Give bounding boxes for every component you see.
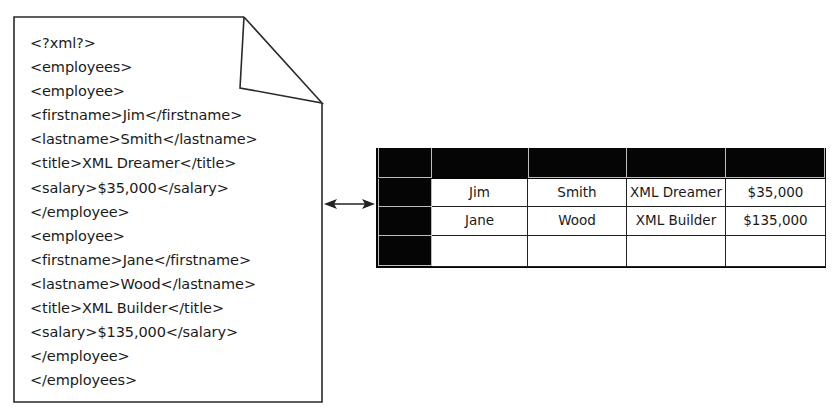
table-cell-title: XML Dreamer <box>627 179 726 207</box>
xml-line: <firstname>Jim</firstname> <box>30 103 258 127</box>
xml-line: <salary>$35,000</salary> <box>30 176 258 200</box>
xml-line: <lastname>Smith</lastname> <box>30 127 258 151</box>
xml-line: <firstname>Jane</firstname> <box>30 248 258 272</box>
xml-line: <lastname>Wood</lastname> <box>30 272 258 296</box>
table-cell-salary: $35,000 <box>726 179 826 207</box>
table-cell-firstname: Jim <box>432 179 528 207</box>
column-header-cell <box>432 148 528 178</box>
xml-line: <title>XML Builder</title> <box>30 296 258 320</box>
xml-line: </employees> <box>30 368 258 392</box>
table-cell-lastname: Smith <box>528 179 627 207</box>
xml-line: </employee> <box>30 344 258 368</box>
row-header-cell <box>378 236 432 266</box>
xml-line: <salary>$135,000</salary> <box>30 320 258 344</box>
xml-line: <?xml?> <box>30 31 258 55</box>
table-cell-title: XML Builder <box>627 207 726 236</box>
table-cell-empty <box>627 236 726 267</box>
column-header-cell <box>528 148 627 178</box>
table-cell-salary: $135,000 <box>726 207 826 236</box>
xml-line: </employee> <box>30 200 258 224</box>
table-cell-empty <box>432 236 528 267</box>
xml-line: <employee> <box>30 224 258 248</box>
column-header-cell <box>627 148 726 178</box>
xml-line: <employee> <box>30 79 258 103</box>
table-cell-empty <box>528 236 627 267</box>
database-table: Jim Smith XML Dreamer $35,000 Jane Wood … <box>376 148 826 268</box>
column-header-cell <box>726 148 825 178</box>
xml-line: <title>XML Dreamer</title> <box>30 151 258 175</box>
corner-header-cell <box>378 148 432 178</box>
xml-code-listing: <?xml?> <employees> <employee> <firstnam… <box>30 31 258 392</box>
table-cell-empty <box>726 236 826 267</box>
table-cell-firstname: Jane <box>432 207 528 236</box>
row-header-cell <box>378 179 432 207</box>
xml-line: <employees> <box>30 55 258 79</box>
table-cell-lastname: Wood <box>528 207 627 236</box>
row-header-cell <box>378 207 432 236</box>
double-headed-arrow-icon <box>324 199 375 209</box>
